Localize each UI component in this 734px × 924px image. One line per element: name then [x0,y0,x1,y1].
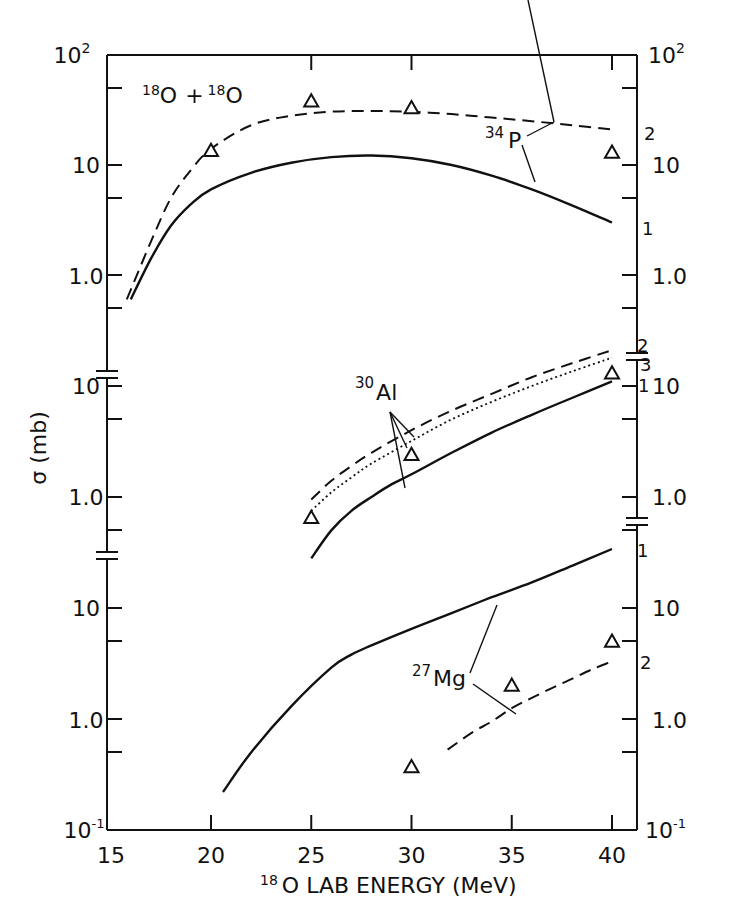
svg-text:30Al: 30Al [355,374,397,405]
svg-text:1.0: 1.0 [652,264,687,289]
svg-text:10: 10 [72,374,100,399]
curve-label-30Al-2: 2 [637,335,648,356]
svg-text:27Mg: 27Mg [412,662,466,691]
svg-text:10: 10 [72,153,100,178]
svg-text:1.0: 1.0 [69,708,104,733]
curve-label-34P-2: 2 [644,123,655,144]
curve-label-30Al-3: 3 [640,354,651,375]
curve-label-34P-1: 1 [642,218,653,239]
svg-text:10: 10 [652,153,680,178]
x-axis-title: 18O LAB ENERGY (MeV) [260,872,517,898]
curve-30Al-2 [311,350,612,499]
triangle-marker-icon [405,760,419,772]
svg-text:102: 102 [54,40,91,68]
y-tick-labels-left: 102 10 1.0 10 1.0 10 1.0 10-1 [54,40,105,843]
x-tick-label: 25 [297,843,325,868]
curve-34P-1 [131,155,612,299]
triangle-marker-icon [605,145,619,157]
triangle-marker-icon [505,679,519,691]
triangle-marker-icon [405,448,419,460]
reaction-label: 18O+18O [142,82,243,108]
svg-text:1.0: 1.0 [652,485,687,510]
triangle-marker-icon [405,101,419,113]
triangle-marker-icon [304,511,318,523]
cross-section-figure: 102 10 1.0 10 1.0 10 1.0 10-1 102 10 1.0… [0,0,734,924]
curve-label-27Mg-1: 1 [637,540,648,561]
svg-text:1.0: 1.0 [69,264,104,289]
axis-ticks [107,55,637,830]
curve-34P-2 [127,111,612,299]
curve-27Mg-2 [448,661,612,749]
svg-text:10-1: 10-1 [64,816,105,843]
svg-text:10: 10 [652,596,680,621]
triangle-marker-icon [304,94,318,106]
svg-text:34P: 34P [485,124,521,153]
svg-text:102: 102 [648,40,685,68]
y-tick-labels-right: 102 10 1.0 10 1.0 10 1.0 10-1 [645,40,687,843]
curve-label-30Al-1: 1 [638,375,649,396]
curves [127,111,612,792]
x-tick-labels: 152025303540 [97,843,626,868]
svg-text:10-1: 10-1 [645,816,686,843]
x-tick-label: 15 [97,843,125,868]
plot-frame [107,55,637,830]
x-tick-label: 30 [398,843,426,868]
y-axis-title: σ (mb) [26,411,51,485]
curve-30Al-1 [311,381,612,558]
label-27Mg: 27Mg 1 2 [412,540,651,714]
svg-text:1.0: 1.0 [652,708,687,733]
svg-text:10: 10 [652,374,680,399]
x-tick-label: 35 [498,843,526,868]
triangle-marker-icon [605,366,619,378]
triangle-marker-icon [605,634,619,646]
x-tick-label: 20 [197,843,225,868]
label-30Al: 30Al 2 3 1 [355,335,651,488]
svg-text:10: 10 [72,596,100,621]
svg-text:1.0: 1.0 [69,485,104,510]
curve-label-27Mg-2: 2 [640,652,651,673]
x-tick-label: 40 [598,843,626,868]
